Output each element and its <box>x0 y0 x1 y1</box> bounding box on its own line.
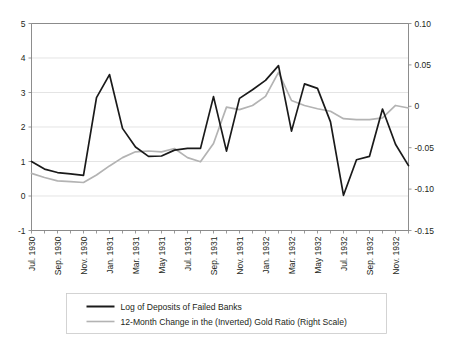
x-axis-tick-labels: Jul. 1930Sep. 1930Nov. 1930Jan. 1931Mar.… <box>27 236 401 275</box>
x-tick-label: Jul. 1931 <box>183 236 193 271</box>
y2-tick-label: -0.15 <box>415 226 435 236</box>
x-tick-label: Mar. 1932 <box>287 236 297 274</box>
y-tick-label: 5 <box>21 19 26 29</box>
x-tick-label: Mar. 1931 <box>131 236 141 274</box>
y2-tick-label: -0.05 <box>415 143 435 153</box>
y2-tick-label: 0.10 <box>415 19 432 29</box>
y2-tick-label: -0.10 <box>415 184 435 194</box>
legend-box <box>67 294 387 334</box>
x-tick-label: Nov. 1932 <box>391 236 401 274</box>
line-chart: 543210-1 0.100.050-0.05-0.10-0.15 Jul. 1… <box>0 0 451 345</box>
x-tick-label: Jan. 1932 <box>261 236 271 274</box>
y-tick-label: 1 <box>21 157 26 167</box>
y2-tick-label: 0.05 <box>415 60 432 70</box>
x-tick-label: Jan. 1931 <box>105 236 115 274</box>
chart-legend: Log of Deposits of Failed Banks12-Month … <box>67 294 387 334</box>
x-tick-label: Jul. 1930 <box>27 236 37 271</box>
x-tick-label: Sep. 1931 <box>209 236 219 275</box>
y-tick-label: 2 <box>21 122 26 132</box>
y-tick-label: 0 <box>21 191 26 201</box>
y-tick-label: -1 <box>18 226 26 236</box>
x-tick-label: Jul. 1932 <box>339 236 349 271</box>
x-tick-label: Sep. 1932 <box>365 236 375 275</box>
legend-entry-label: Log of Deposits of Failed Banks <box>121 302 242 312</box>
y-tick-label: 3 <box>21 88 26 98</box>
x-tick-label: May 1931 <box>157 236 167 274</box>
x-tick-label: May 1932 <box>313 236 323 274</box>
x-tick-label: Nov. 1931 <box>235 236 245 274</box>
x-tick-label: Nov. 1930 <box>79 236 89 274</box>
legend-entry-label: 12-Month Change in the (Inverted) Gold R… <box>121 317 348 327</box>
y-tick-label: 4 <box>21 53 26 63</box>
chart-figure: 543210-1 0.100.050-0.05-0.10-0.15 Jul. 1… <box>0 0 451 345</box>
y2-tick-label: 0 <box>415 101 420 111</box>
x-tick-label: Sep. 1930 <box>53 236 63 275</box>
